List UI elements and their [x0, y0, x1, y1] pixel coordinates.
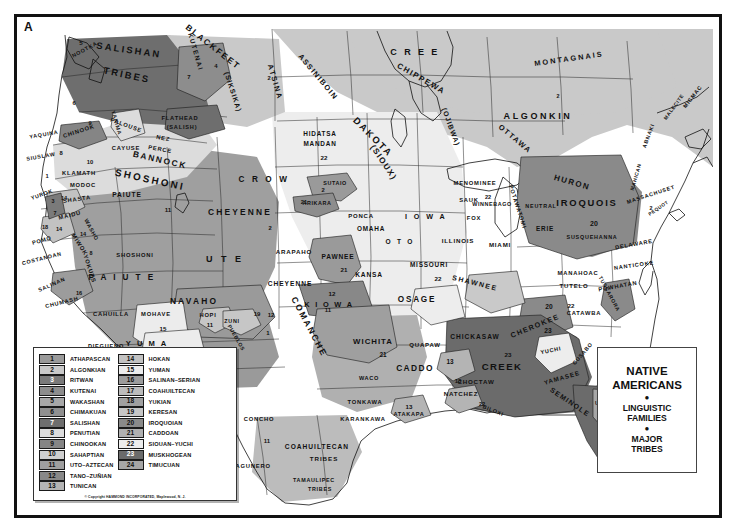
- legend-swatch-1: 1: [39, 354, 65, 364]
- legend-label-23: MUSKHOGEAN: [149, 452, 192, 458]
- legend-label-4: KUTENAI: [70, 388, 96, 394]
- legend-column-left: 1ATHAPASCAN2ALGONKIAN3RITWAN4KUTENAI5WAK…: [39, 354, 114, 492]
- legend-label-17: COAHUILTECAN: [149, 388, 196, 394]
- legend-row[interactable]: 2ALGONKIAN: [39, 365, 114, 376]
- legend-label-9: CHINOOKAN: [70, 441, 106, 447]
- legend-row[interactable]: 13TUNICAN: [39, 481, 114, 492]
- title-dot-2: ●: [645, 425, 650, 432]
- panel-letter: A: [24, 20, 33, 34]
- legend-label-3: RITWAN: [70, 377, 93, 383]
- legend-swatch-20: 20: [118, 418, 144, 428]
- legend-row[interactable]: 15YUMAN: [118, 365, 201, 376]
- legend-label-22: SIOUAN–YUCHI: [149, 441, 193, 447]
- legend-swatch-19: 19: [118, 407, 144, 417]
- legend-row[interactable]: 11UTO–AZTECAN: [39, 460, 114, 471]
- legend-label-6: CHIMAKUAN: [70, 409, 106, 415]
- legend-row[interactable]: 1ATHAPASCAN: [39, 354, 114, 365]
- legend-swatch-24: 24: [118, 460, 144, 470]
- legend-swatch-22: 22: [118, 439, 144, 449]
- legend-swatch-21: 21: [118, 428, 144, 438]
- title-line-1: NATIVE: [626, 365, 667, 378]
- legend-label-7: SALISHAN: [70, 420, 100, 426]
- copyright-notice: © Copyright HAMMOND INCORPORATED, Maplew…: [34, 495, 236, 499]
- legend-row[interactable]: 14HOKAN: [118, 354, 201, 365]
- legend-label-19: KERESAN: [149, 409, 178, 415]
- legend-row[interactable]: 21CADDOAN: [118, 428, 201, 439]
- legend-label-5: WAKASHAN: [70, 399, 104, 405]
- title-box: NATIVE AMERICANS ● LINGUISTIC FAMILIES ●…: [597, 347, 697, 473]
- title-line-4: FAMILIES: [627, 413, 667, 423]
- legend-row[interactable]: 5WAKASHAN: [39, 396, 114, 407]
- legend-swatch-9: 9: [39, 439, 65, 449]
- legend-swatch-6: 6: [39, 407, 65, 417]
- legend-label-24: TIMUCUAN: [149, 462, 180, 468]
- legend-swatch-2: 2: [39, 365, 65, 375]
- legend-swatch-13: 13: [39, 481, 65, 491]
- legend-label-15: YUMAN: [149, 367, 170, 373]
- legend-label-16: SALINAN–SERIAN: [149, 377, 201, 383]
- map-frame: A: [14, 14, 722, 518]
- legend-row[interactable]: 20IROQUOIAN: [118, 418, 201, 429]
- legend-label-12: TANO–ZUÑIAN: [70, 473, 112, 479]
- legend-swatch-23: 23: [118, 450, 144, 460]
- legend-column-right: 14HOKAN15YUMAN16SALINAN–SERIAN17COAHUILT…: [118, 354, 201, 492]
- legend-label-18: YUKIAN: [149, 399, 172, 405]
- legend-box: 1ATHAPASCAN2ALGONKIAN3RITWAN4KUTENAI5WAK…: [33, 347, 237, 501]
- legend-row[interactable]: 7SALISHAN: [39, 418, 114, 429]
- legend-label-21: CADDOAN: [149, 430, 179, 436]
- legend-swatch-7: 7: [39, 418, 65, 428]
- legend-label-13: TUNICAN: [70, 483, 96, 489]
- legend-swatch-14: 14: [118, 354, 144, 364]
- title-line-6: TRIBES: [631, 444, 663, 454]
- legend-row[interactable]: 19KERESAN: [118, 407, 201, 418]
- title-dot-1: ●: [645, 394, 650, 401]
- legend-swatch-17: 17: [118, 386, 144, 396]
- title-line-2: AMERICANS: [612, 379, 682, 392]
- map-plate: A: [0, 0, 730, 527]
- title-line-5: MAJOR: [631, 434, 662, 444]
- title-line-3: LINGUISTIC: [623, 403, 672, 413]
- legend-swatch-4: 4: [39, 386, 65, 396]
- legend-swatch-16: 16: [118, 375, 144, 385]
- legend-swatch-10: 10: [39, 450, 65, 460]
- legend-row[interactable]: 4KUTENAI: [39, 386, 114, 397]
- legend-row[interactable]: 22SIOUAN–YUCHI: [118, 439, 201, 450]
- legend-label-14: HOKAN: [149, 356, 170, 362]
- legend-label-20: IROQUOIAN: [149, 420, 183, 426]
- legend-row[interactable]: 9CHINOOKAN: [39, 439, 114, 450]
- legend-swatch-15: 15: [118, 365, 144, 375]
- legend-row[interactable]: 8PENUTIAN: [39, 428, 114, 439]
- legend-row[interactable]: 24TIMUCUAN: [118, 460, 201, 471]
- legend-row[interactable]: 16SALINAN–SERIAN: [118, 375, 201, 386]
- legend-row[interactable]: 3RITWAN: [39, 375, 114, 386]
- legend-swatch-11: 11: [39, 460, 65, 470]
- legend-swatch-12: 12: [39, 471, 65, 481]
- legend-label-2: ALGONKIAN: [70, 367, 106, 373]
- legend-row[interactable]: 10SAHAPTIAN: [39, 449, 114, 460]
- legend-row[interactable]: 23MUSKHOGEAN: [118, 449, 201, 460]
- legend-swatch-18: 18: [118, 397, 144, 407]
- legend-label-8: PENUTIAN: [70, 430, 100, 436]
- legend-label-1: ATHAPASCAN: [70, 356, 110, 362]
- legend-label-11: UTO–AZTECAN: [70, 462, 114, 468]
- legend-row[interactable]: 18YUKIAN: [118, 396, 201, 407]
- legend-label-10: SAHAPTIAN: [70, 452, 104, 458]
- legend-swatch-8: 8: [39, 428, 65, 438]
- legend-row[interactable]: 17COAHUILTECAN: [118, 386, 201, 397]
- legend-row[interactable]: 12TANO–ZUÑIAN: [39, 471, 114, 482]
- legend-swatch-3: 3: [39, 375, 65, 385]
- legend-swatch-5: 5: [39, 397, 65, 407]
- legend-row[interactable]: 6CHIMAKUAN: [39, 407, 114, 418]
